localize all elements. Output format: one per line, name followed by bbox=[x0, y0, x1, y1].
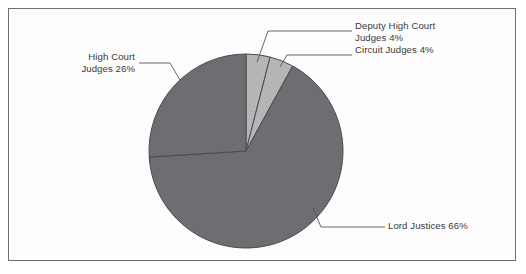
pie-label-circuit-judges: Circuit Judges 4% bbox=[355, 44, 434, 56]
pie-chart-screenshot: Deputy High Court Judges 4% Circuit Judg… bbox=[0, 0, 526, 274]
pie-label-high-court-judges: High Court Judges 26% bbox=[41, 51, 135, 74]
pie-label-deputy-high-court-judges-line2: Judges 4% bbox=[355, 32, 435, 44]
leader-line-lord-justices bbox=[313, 208, 385, 227]
pie-label-deputy-high-court-judges: Deputy High Court Judges 4% bbox=[355, 20, 435, 43]
pie-label-high-court-judges-line1: High Court bbox=[41, 51, 135, 63]
pie-slice-group bbox=[149, 54, 343, 248]
pie-label-circuit-judges-text: Circuit Judges 4% bbox=[355, 44, 434, 56]
pie-chart-graphic bbox=[0, 0, 526, 274]
pie-label-high-court-judges-line2: Judges 26% bbox=[41, 63, 135, 75]
pie-label-lord-justices-text: Lord Justices 66% bbox=[388, 220, 468, 232]
pie-slice-high-court-judges[interactable] bbox=[149, 54, 246, 157]
pie-label-lord-justices: Lord Justices 66% bbox=[388, 220, 468, 232]
leader-line-high-court-judges bbox=[139, 63, 180, 80]
pie-label-deputy-high-court-judges-line1: Deputy High Court bbox=[355, 20, 435, 32]
